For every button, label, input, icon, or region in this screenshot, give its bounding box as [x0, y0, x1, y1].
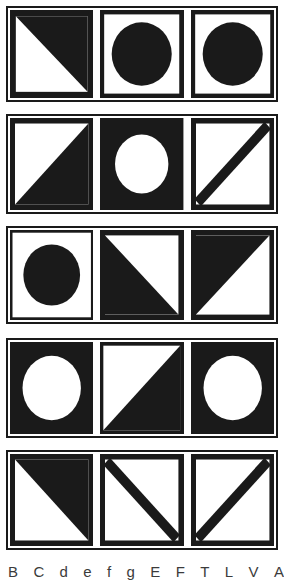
panel-row-5 [6, 450, 278, 550]
circle-filled-icon [100, 10, 183, 98]
caption-glyph: d [60, 563, 68, 580]
circle-hollow-on-black-icon [100, 118, 183, 210]
cell-r1c3 [191, 10, 274, 98]
caption-glyph: A [274, 563, 284, 580]
cell-r2c3 [191, 118, 274, 210]
circle-filled-icon [191, 10, 274, 98]
cell-r5c2 [100, 454, 183, 546]
triangle-filled-lower-right-icon [10, 118, 93, 210]
caption-strip: B C d e f g E F T L V A [0, 563, 284, 580]
cell-r3c2 [100, 230, 183, 320]
cell-r1c1 [10, 10, 93, 98]
panel-row-2 [6, 114, 278, 214]
caption-glyph: g [127, 563, 135, 580]
caption-glyph: f [107, 563, 111, 580]
caption-glyph: C [33, 563, 44, 580]
triangle-filled-lower-left-icon [100, 230, 183, 320]
triangle-filled-lower-right-icon [100, 342, 183, 434]
cell-r3c1 [10, 230, 93, 320]
circle-filled-icon [10, 230, 93, 320]
triangle-filled-upper-right-icon [10, 454, 93, 546]
geometric-figure-sheet: B C d e f g E F T L V A [0, 0, 284, 580]
panel-row-3 [6, 226, 278, 324]
cell-r4c3 [191, 342, 274, 434]
cell-r2c1 [10, 118, 93, 210]
diagonal-line-bottomleft-topright-icon [191, 118, 274, 210]
panel-row-4 [6, 338, 278, 438]
triangle-filled-upper-left-icon [191, 230, 274, 320]
circle-hollow-on-black-icon [191, 342, 274, 434]
cell-r1c2 [100, 10, 183, 98]
caption-glyph: V [249, 563, 259, 580]
caption-glyph: L [225, 563, 233, 580]
cell-r4c1 [10, 342, 93, 434]
cell-r4c2 [100, 342, 183, 434]
cell-r2c2 [100, 118, 183, 210]
caption-glyph: T [200, 563, 209, 580]
caption-glyph: E [150, 563, 160, 580]
panel-row-1 [6, 6, 278, 102]
circle-hollow-on-black-icon [10, 342, 93, 434]
cell-r5c1 [10, 454, 93, 546]
triangle-filled-upper-right-icon [10, 10, 93, 98]
cell-r3c3 [191, 230, 274, 320]
diagonal-line-topleft-bottomright-icon [100, 454, 183, 546]
cell-r5c3 [191, 454, 274, 546]
diagonal-line-bottomleft-topright-icon [191, 454, 274, 546]
caption-glyph: e [83, 563, 91, 580]
caption-glyph-row: B C d e f g E F T L V A [8, 563, 284, 580]
caption-glyph: F [176, 563, 185, 580]
caption-glyph: B [8, 563, 18, 580]
